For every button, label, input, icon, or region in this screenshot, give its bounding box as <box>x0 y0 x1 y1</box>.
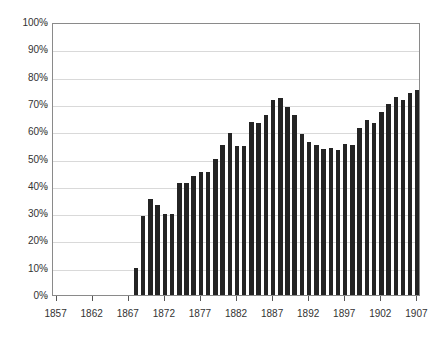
x-axis-tick-label: 1877 <box>180 308 220 319</box>
bar <box>336 150 340 295</box>
x-axis-tick <box>308 296 309 301</box>
y-axis-tick-label: 70% <box>4 100 48 110</box>
bar <box>372 123 376 295</box>
x-axis-tick-label: 1892 <box>288 308 328 319</box>
x-axis-tick <box>380 296 381 301</box>
bar <box>141 216 145 295</box>
bar <box>256 123 260 295</box>
bar <box>213 159 217 296</box>
bar <box>321 149 325 295</box>
y-axis-tick-label: 40% <box>4 182 48 192</box>
bar <box>235 146 239 295</box>
bar <box>271 100 275 295</box>
bar <box>285 107 289 295</box>
bar <box>206 172 210 295</box>
y-axis-tick-label: 60% <box>4 127 48 137</box>
x-axis-tick <box>344 296 345 301</box>
bar <box>184 183 188 295</box>
x-axis-tick <box>236 296 237 301</box>
bar <box>408 93 412 295</box>
x-axis-tick-label: 1857 <box>36 308 76 319</box>
bar-chart: 100%90%80%70%60%50%40%30%20%10%0% 185718… <box>0 0 446 339</box>
y-axis-tick-label: 20% <box>4 236 48 246</box>
x-axis: 1857186218671872187718821887189218971902… <box>52 296 420 339</box>
x-axis-tick <box>416 296 417 301</box>
bar <box>343 144 347 296</box>
x-axis-tick-label: 1882 <box>216 308 256 319</box>
bar <box>170 214 174 295</box>
y-axis-tick <box>44 132 48 133</box>
bar <box>191 176 195 295</box>
bar <box>350 145 354 295</box>
y-axis-tick-label: 80% <box>4 73 48 83</box>
x-axis-tick <box>200 296 201 301</box>
x-axis-tick-label: 1872 <box>144 308 184 319</box>
x-axis-tick-label: 1862 <box>72 308 112 319</box>
bar <box>264 115 268 295</box>
bar <box>314 145 318 295</box>
bar <box>379 112 383 295</box>
x-axis-tick <box>164 296 165 301</box>
bar <box>163 214 167 295</box>
bar <box>329 148 333 295</box>
bar <box>307 142 311 295</box>
bar <box>401 100 405 295</box>
y-axis-tick <box>44 23 48 24</box>
bar <box>228 133 232 295</box>
bar <box>134 268 138 295</box>
x-axis-tick <box>56 296 57 301</box>
y-axis-tick <box>44 296 48 297</box>
y-axis-tick <box>44 241 48 242</box>
x-axis-tick <box>128 296 129 301</box>
bar <box>292 115 296 295</box>
bar <box>199 172 203 295</box>
bar <box>386 104 390 295</box>
y-axis-tick-label: 0% <box>4 291 48 301</box>
y-axis-tick <box>44 78 48 79</box>
bars-layer <box>53 24 419 295</box>
bar <box>242 146 246 295</box>
bar <box>177 183 181 295</box>
y-axis-tick-label: 90% <box>4 45 48 55</box>
bar <box>300 134 304 295</box>
y-axis-tick <box>44 160 48 161</box>
bar <box>365 120 369 295</box>
x-axis-tick-label: 1907 <box>396 308 436 319</box>
bar <box>415 90 419 295</box>
y-axis-tick <box>44 105 48 106</box>
bar <box>249 122 253 295</box>
x-axis-tick-label: 1902 <box>360 308 400 319</box>
y-axis-tick <box>44 269 48 270</box>
x-axis-tick <box>272 296 273 301</box>
y-axis-tick <box>44 214 48 215</box>
bar <box>278 98 282 295</box>
y-axis-tick-label: 100% <box>4 18 48 28</box>
bar <box>394 97 398 295</box>
x-axis-tick-label: 1897 <box>324 308 364 319</box>
bar <box>155 205 159 295</box>
bar <box>220 145 224 295</box>
y-axis-tick-label: 30% <box>4 209 48 219</box>
y-axis-tick-label: 50% <box>4 155 48 165</box>
y-axis: 100%90%80%70%60%50%40%30%20%10%0% <box>0 23 48 296</box>
y-axis-tick <box>44 187 48 188</box>
x-axis-tick-label: 1887 <box>252 308 292 319</box>
y-axis-tick-label: 10% <box>4 264 48 274</box>
bar <box>357 128 361 295</box>
x-axis-tick-label: 1867 <box>108 308 148 319</box>
x-axis-tick <box>92 296 93 301</box>
bar <box>148 199 152 295</box>
plot-area <box>52 23 420 296</box>
y-axis-tick <box>44 50 48 51</box>
